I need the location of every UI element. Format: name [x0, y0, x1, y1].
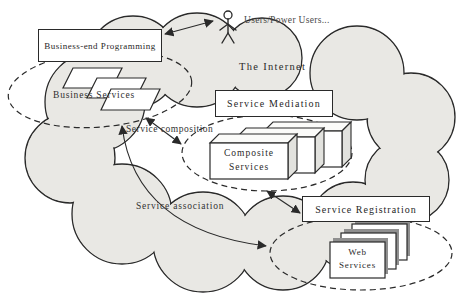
- business-services-label: Business Services: [53, 90, 135, 100]
- composite-services-line1: Composite: [210, 147, 288, 161]
- diagram-canvas: Business-end Programming Service Mediati…: [0, 0, 463, 301]
- composite-services-line2: Services: [210, 161, 288, 175]
- users-label: Users/Power Users...: [244, 15, 330, 25]
- web-services-line2: Services: [330, 259, 385, 272]
- service-association-label: Service association: [136, 201, 224, 211]
- web-services-label: Web Services: [330, 246, 385, 272]
- service-mediation-box: Service Mediation: [215, 90, 333, 117]
- composite-services-label: Composite Services: [210, 147, 288, 174]
- internet-label: The Internet: [239, 61, 306, 72]
- business-end-programming-box: Business-end Programming: [38, 29, 162, 62]
- service-composition-label: Service composition: [126, 124, 213, 134]
- web-services-line1: Web: [330, 246, 385, 259]
- service-registration-box: Service Registration: [302, 196, 430, 222]
